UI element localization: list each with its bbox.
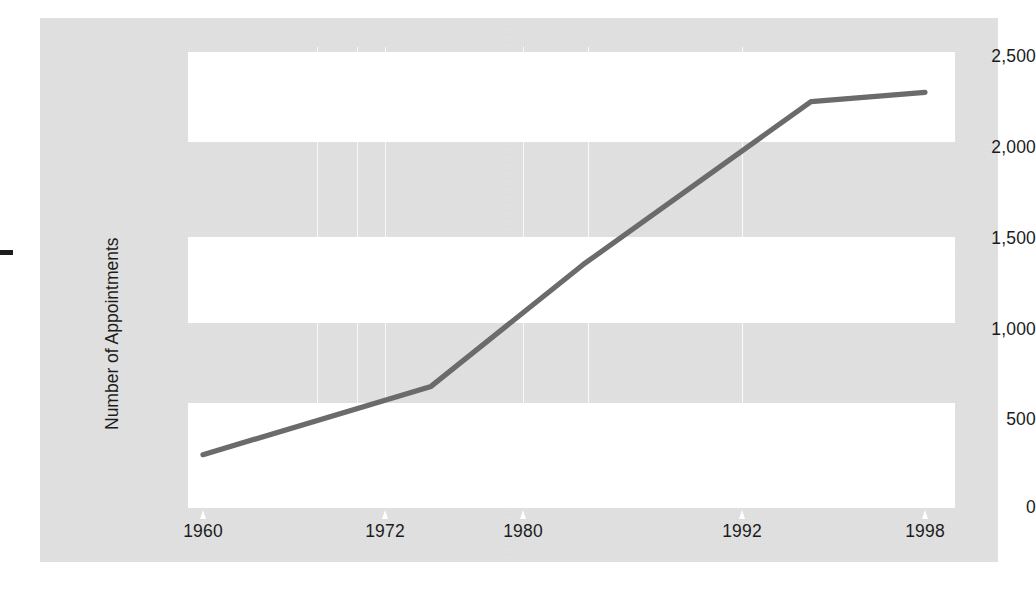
x-tick-label-1972: 1972 [365,521,405,542]
x-tick-mark-1992 [739,510,745,519]
appointments-line-series [188,47,955,508]
x-tick-mark-1960 [200,510,206,519]
x-tick-mark-1980 [520,510,526,519]
scan-edge-artifact [0,250,13,255]
x-tick-label-1980: 1980 [503,521,543,542]
series-polyline [203,92,925,454]
x-tick-label-1992: 1992 [722,521,762,542]
x-tick-label-1960: 1960 [183,521,223,542]
x-tick-mark-1998 [922,510,928,519]
chart-figure: 2,500 2,000 1,500 1,000 500 0 Number of … [0,0,1036,605]
plot-area [188,47,955,508]
x-tick-label-1998: 1998 [905,521,945,542]
x-tick-mark-1972 [382,510,388,519]
y-axis-title: Number of Appointments [102,237,123,430]
